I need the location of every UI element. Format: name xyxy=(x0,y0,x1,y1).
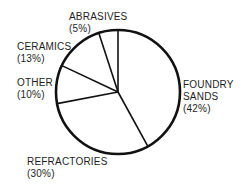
label-ceramics: CERAMICS (13%) xyxy=(17,41,71,65)
label-refractories: REFRACTORIES (30%) xyxy=(27,156,108,180)
label-ceramics-pct: (13%) xyxy=(17,53,71,65)
label-abrasives-pct: (5%) xyxy=(69,23,128,35)
label-abrasives-name: ABRASIVES xyxy=(69,11,128,23)
label-other: OTHER (10%) xyxy=(17,77,53,101)
label-foundry-sands-line1: FOUNDRY xyxy=(183,79,234,91)
label-foundry-sands: FOUNDRY SANDS (42%) xyxy=(183,79,234,115)
label-refractories-name: REFRACTORIES xyxy=(27,156,108,168)
label-other-pct: (10%) xyxy=(17,89,53,101)
label-abrasives: ABRASIVES (5%) xyxy=(69,11,128,35)
label-refractories-pct: (30%) xyxy=(27,168,108,180)
label-foundry-sands-line2: SANDS xyxy=(183,91,234,103)
label-other-name: OTHER xyxy=(17,77,53,89)
label-foundry-sands-pct: (42%) xyxy=(183,103,234,115)
label-ceramics-name: CERAMICS xyxy=(17,41,71,53)
